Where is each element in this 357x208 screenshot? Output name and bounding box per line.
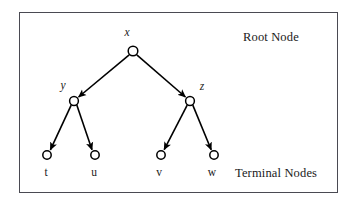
tree-nodes (43, 46, 218, 159)
edge-x-to-z (137, 55, 186, 97)
terminal-nodes-annotation: Terminal Nodes (235, 166, 317, 181)
figure-screenshot: x y z t u v w Root Node Terminal Nodes (0, 0, 357, 208)
node-label-t: t (39, 166, 53, 178)
edge-z-to-w (193, 105, 211, 150)
node-label-u: u (87, 166, 101, 178)
node-circle-v (157, 151, 165, 159)
node-circle-u (91, 151, 99, 159)
node-label-x: x (120, 26, 134, 38)
node-label-z: z (195, 80, 209, 92)
root-node-annotation: Root Node (243, 30, 299, 45)
edge-x-to-y (79, 55, 130, 97)
node-circle-z (186, 97, 195, 106)
node-label-y: y (56, 79, 70, 91)
node-circle-w (210, 151, 218, 159)
node-label-v: v (152, 166, 166, 178)
node-circle-t (43, 151, 51, 159)
edge-z-to-v (164, 105, 187, 150)
node-label-w: w (205, 166, 219, 178)
edge-y-to-t (50, 105, 71, 150)
edge-y-to-u (77, 105, 92, 150)
node-circle-x (128, 46, 138, 56)
node-circle-y (70, 97, 79, 106)
